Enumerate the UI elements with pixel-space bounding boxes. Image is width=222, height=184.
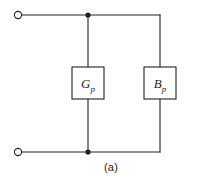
susceptance-subscript: p	[161, 84, 167, 94]
top-terminal-node	[14, 11, 21, 18]
susceptance-symbol: B	[154, 76, 162, 91]
top-junction-dot	[85, 12, 90, 17]
circuit-diagram-canvas: Gp Bp	[0, 0, 222, 184]
figure-caption: (a)	[0, 161, 222, 173]
conductance-subscript: p	[89, 84, 95, 94]
bottom-terminal-node	[14, 148, 21, 155]
bottom-junction-dot	[85, 149, 90, 154]
circuit-figure: Gp Bp (a)	[0, 0, 222, 184]
